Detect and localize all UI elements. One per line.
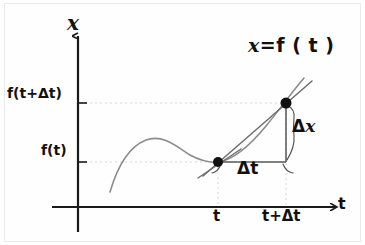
delta-t-variable: t bbox=[250, 158, 258, 178]
delta-x-label: Δx bbox=[292, 118, 315, 135]
figure-root: x t x=f ( t ) f(t+Δt) f(t) t t+Δt Δx Δt bbox=[0, 0, 365, 245]
function-equation-operator: = bbox=[260, 34, 276, 56]
y-tick-label-f-of-t: f(t) bbox=[41, 143, 67, 157]
function-curve bbox=[110, 78, 304, 192]
function-equation-rhs: f ( t ) bbox=[276, 34, 334, 56]
x-tick-label-t-plus-delta-t: t+Δt bbox=[262, 209, 301, 224]
point-lower bbox=[213, 157, 223, 167]
delta-t-brace-right bbox=[283, 164, 293, 173]
y-axis-ticks bbox=[78, 103, 87, 162]
y-axis-label: x bbox=[67, 13, 79, 33]
y-tick-label-f-of-t-plus-delta-t: f(t+Δt) bbox=[7, 86, 62, 100]
point-upper bbox=[281, 98, 292, 109]
delta-t-label: Δt bbox=[237, 160, 258, 177]
delta-symbol-t: Δ bbox=[237, 158, 250, 178]
guide-lines bbox=[80, 103, 287, 207]
delta-symbol-x: Δ bbox=[292, 116, 305, 136]
x-tick-label-t: t bbox=[213, 209, 220, 224]
delta-x-variable: x bbox=[305, 116, 315, 136]
function-equation-lhs: x bbox=[248, 34, 260, 56]
function-equation-label: x=f ( t ) bbox=[248, 36, 334, 55]
x-axis-label: t bbox=[338, 196, 346, 212]
